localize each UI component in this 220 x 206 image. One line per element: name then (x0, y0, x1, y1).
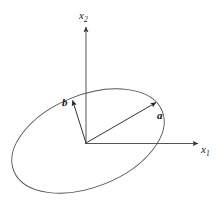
vector-a-line (86, 103, 156, 144)
x1-axis-label: x1 (201, 144, 210, 158)
vector-b-line (73, 101, 86, 144)
vector-b-label: b (62, 97, 68, 108)
vector-ellipse-figure: x2 x1 a b (0, 0, 220, 206)
x2-axis-label-subscript: 2 (84, 15, 88, 24)
ellipse-group (0, 68, 179, 206)
x2-axis-label: x2 (79, 10, 88, 24)
figure-canvas (0, 0, 220, 206)
vector-a-label: a (157, 110, 163, 121)
ellipse (0, 68, 179, 206)
vector-b (73, 101, 86, 144)
x1-axis-label-subscript: 1 (206, 149, 210, 158)
vector-a (86, 103, 156, 144)
